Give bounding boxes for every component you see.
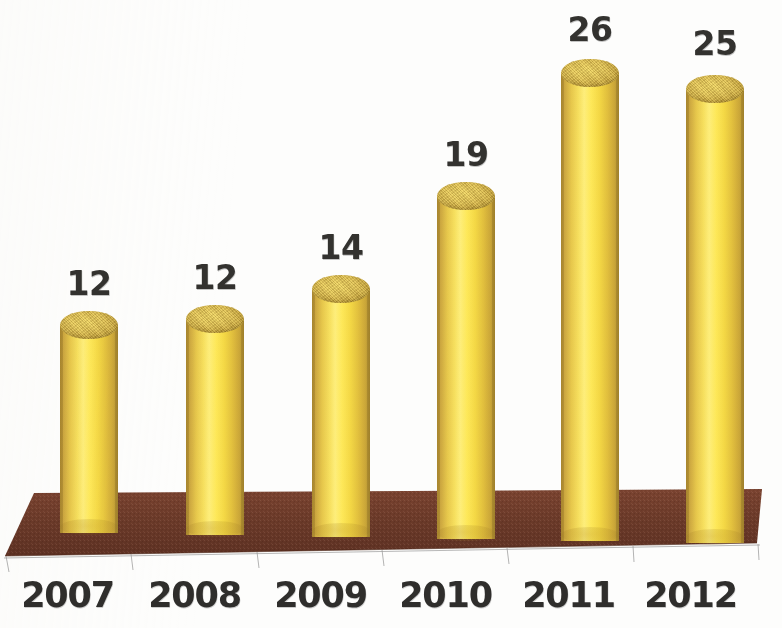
cylinder-body — [437, 196, 495, 539]
category-label-2007: 2007 — [10, 575, 125, 615]
cylinder-right-edge — [492, 196, 495, 539]
cylinder-top-ellipse — [437, 182, 495, 210]
plot-area: 12 12 — [0, 0, 782, 575]
cylinder-left-edge — [312, 289, 315, 537]
cylinder-2007 — [60, 311, 118, 533]
cylinder-top-ellipse — [312, 275, 370, 303]
cylinder-body — [561, 73, 619, 541]
cylinder-left-edge — [60, 325, 63, 533]
cylinder-2011 — [561, 59, 619, 541]
cylinder-base-shadow — [561, 527, 619, 543]
cylinder-right-edge — [241, 319, 244, 535]
bar-2012[interactable] — [686, 75, 744, 543]
cylinder-body — [60, 325, 118, 533]
cylinder-base-shadow — [437, 525, 495, 541]
value-label-2011: 26 — [561, 10, 619, 49]
value-label-2009: 14 — [312, 228, 370, 267]
cylinder-top-ellipse — [186, 305, 244, 333]
cylinder-body-texture — [686, 89, 744, 543]
cylinder-body-texture — [60, 325, 118, 533]
cylinder-right-edge — [367, 289, 370, 537]
value-label-2008: 12 — [186, 258, 244, 297]
floor-noise — [5, 489, 762, 556]
cylinder-base-shadow — [312, 523, 370, 539]
value-label-2010: 19 — [437, 135, 495, 174]
value-label-2007: 12 — [60, 264, 118, 303]
cylinder-base-shadow — [60, 519, 118, 535]
bar-2008[interactable] — [186, 305, 244, 535]
cylinder-left-edge — [437, 196, 440, 539]
category-label-2011: 2011 — [511, 575, 626, 615]
cylinder-top-texture — [437, 182, 495, 210]
floor-front-edge — [5, 543, 757, 556]
cylinder-left-edge — [186, 319, 189, 535]
cylinder-top-ellipse — [561, 59, 619, 87]
category-label-2009: 2009 — [263, 575, 378, 615]
cylinder-top-texture — [561, 59, 619, 87]
cylinder-base-shadow — [186, 521, 244, 537]
axis-baseline — [4, 545, 760, 558]
cylinder-2012 — [686, 75, 744, 543]
cylinder-right-edge — [616, 73, 619, 541]
cylinder-body — [686, 89, 744, 543]
chart-root: 12 12 — [0, 0, 782, 628]
bar-2007[interactable] — [60, 311, 118, 533]
cylinder-left-edge — [686, 89, 689, 543]
cylinder-base-shadow — [686, 529, 744, 545]
cylinder-top-texture — [60, 311, 118, 339]
cylinder-top-texture — [186, 305, 244, 333]
cylinder-2008 — [186, 305, 244, 535]
cylinder-body-texture — [561, 73, 619, 541]
cylinder-2010 — [437, 182, 495, 539]
cylinder-2009 — [312, 275, 370, 537]
category-axis: 2007 2008 2009 2010 2011 2012 — [0, 575, 782, 628]
floor-polygon — [5, 489, 762, 556]
bar-2011[interactable] — [561, 59, 619, 541]
cylinder-body — [312, 289, 370, 537]
bar-2010[interactable] — [437, 182, 495, 539]
cylinder-top-ellipse — [686, 75, 744, 103]
cylinder-top-texture — [312, 275, 370, 303]
cylinder-body — [186, 319, 244, 535]
bar-2009[interactable] — [312, 275, 370, 537]
category-label-2010: 2010 — [388, 575, 503, 615]
cylinder-right-edge — [741, 89, 744, 543]
value-label-2012: 25 — [686, 24, 744, 63]
cylinder-left-edge — [561, 73, 564, 541]
category-label-2008: 2008 — [137, 575, 252, 615]
cylinder-body-texture — [437, 196, 495, 539]
axis-ticks — [6, 544, 759, 572]
category-label-2012: 2012 — [633, 575, 748, 615]
cylinder-body-texture — [186, 319, 244, 535]
cylinder-top-texture — [686, 75, 744, 103]
cylinder-right-edge — [115, 325, 118, 533]
cylinder-top-ellipse — [60, 311, 118, 339]
cylinder-body-texture — [312, 289, 370, 537]
